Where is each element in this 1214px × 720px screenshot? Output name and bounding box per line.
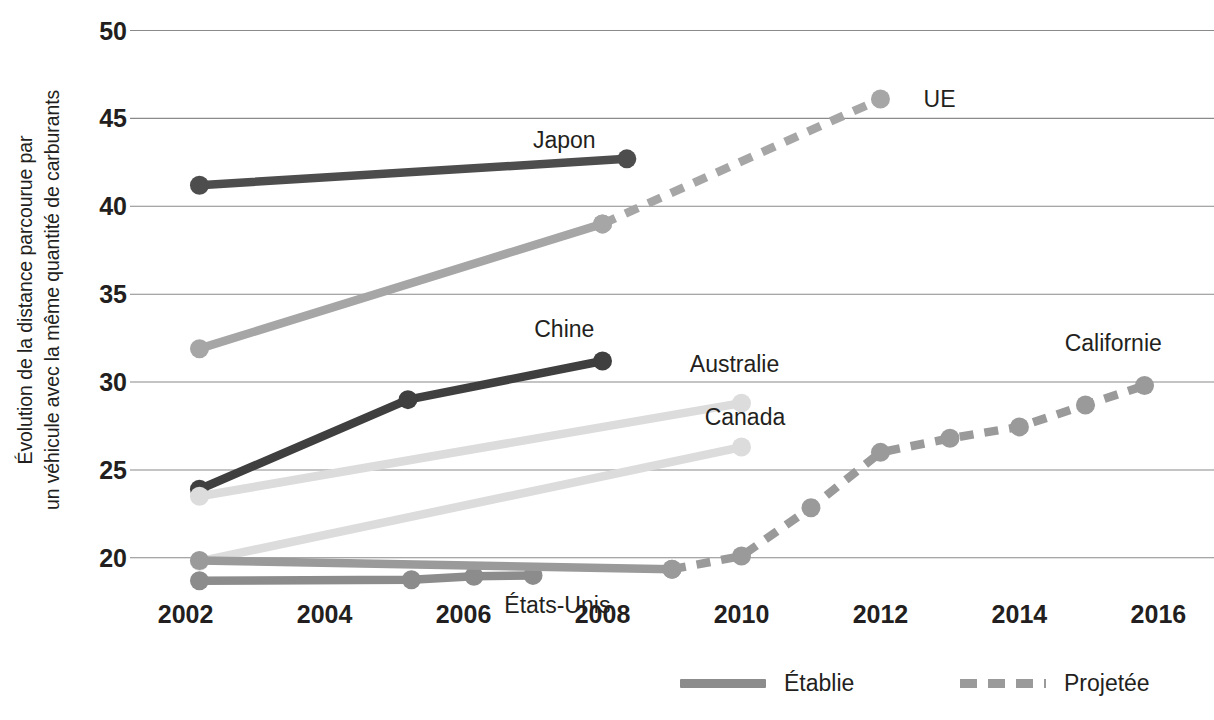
y-axis-tick-label: 20 — [67, 543, 127, 572]
series-chine — [190, 351, 612, 498]
series-label-japon: Japon — [533, 126, 596, 153]
series-label-ue: UE — [924, 86, 956, 113]
data-point — [801, 498, 820, 517]
x-axis-tick-label: 2016 — [1103, 600, 1213, 629]
data-point — [617, 149, 636, 168]
data-point — [190, 487, 209, 506]
data-point — [593, 351, 612, 370]
data-point — [871, 443, 890, 462]
projected-line — [603, 99, 881, 224]
x-axis-tick-label: 2006 — [409, 600, 519, 629]
legend-label-etablie: Établie — [784, 670, 854, 697]
y-axis-title: Évolution de la distance parcourue par u… — [12, 20, 66, 580]
series-label--tats-unis: États-Unis — [504, 592, 610, 619]
plot-area: 20253035404550 2002200420062008201020122… — [130, 20, 1214, 600]
established-line — [199, 560, 672, 569]
series-japon — [190, 149, 636, 194]
data-point — [190, 551, 209, 570]
x-axis-tick-label: 2004 — [270, 600, 380, 629]
series-australie — [190, 394, 751, 506]
established-line — [199, 159, 626, 185]
chart-legend: Établie Projetée — [0, 648, 1214, 720]
established-line — [199, 447, 741, 561]
data-point — [190, 176, 209, 195]
data-point — [871, 90, 890, 109]
x-axis-tick-label: 2002 — [131, 600, 241, 629]
data-point — [1010, 417, 1029, 436]
data-point — [1135, 376, 1154, 395]
solid-line-swatch-icon — [680, 679, 766, 688]
data-point — [398, 390, 417, 409]
data-point — [190, 571, 209, 590]
y-axis-tick-label: 40 — [67, 192, 127, 221]
fuel-economy-line-chart: Évolution de la distance parcourue par u… — [0, 0, 1214, 720]
legend-item-projetee: Projetée — [960, 670, 1150, 697]
x-axis-tick-label: 2012 — [825, 600, 935, 629]
y-axis-tick-label: 45 — [67, 104, 127, 133]
y-axis-tick-label: 25 — [67, 455, 127, 484]
x-axis-tick-label: 2010 — [686, 600, 796, 629]
series-label-chine: Chine — [534, 316, 594, 343]
legend-item-etablie: Établie — [680, 670, 854, 697]
data-point — [593, 214, 612, 233]
y-axis-tick-label: 50 — [67, 16, 127, 45]
data-point — [732, 547, 751, 566]
y-axis-tick-label: 30 — [67, 368, 127, 397]
series-label-canada: Canada — [705, 404, 786, 431]
data-point — [190, 339, 209, 358]
series-label-australie: Australie — [690, 351, 779, 378]
x-axis-tick-label: 2014 — [964, 600, 1074, 629]
chart-canvas — [130, 20, 1214, 600]
data-point — [402, 570, 421, 589]
series-californie — [190, 376, 1154, 579]
data-point — [732, 438, 751, 457]
data-point — [1076, 395, 1095, 414]
legend-label-projetee: Projetée — [1064, 670, 1150, 697]
y-axis-tick-label: 35 — [67, 280, 127, 309]
data-point — [940, 429, 959, 448]
series-label-californie: Californie — [1065, 330, 1162, 357]
data-point — [663, 560, 682, 579]
dashed-line-swatch-icon — [960, 679, 1046, 688]
